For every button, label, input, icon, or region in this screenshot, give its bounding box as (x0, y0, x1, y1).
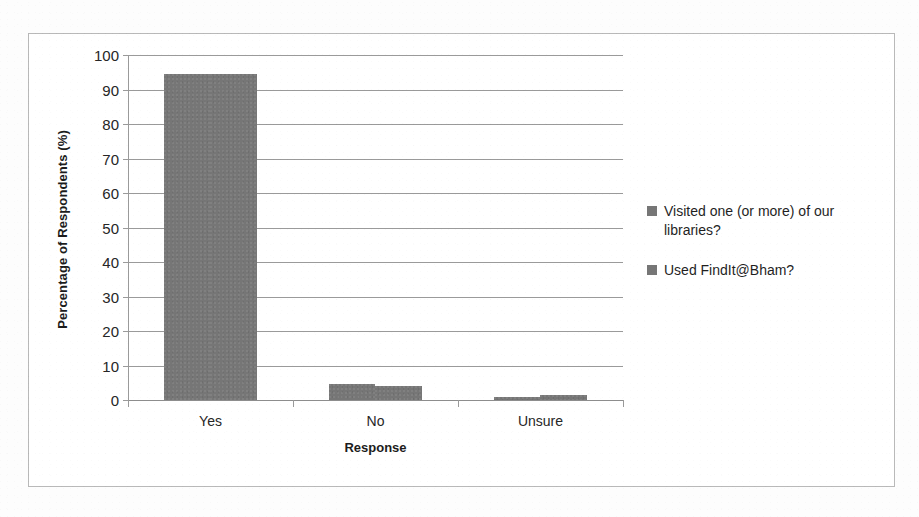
y-axis-tick-label: 100 (94, 47, 119, 64)
legend-label: Visited one (or more) of our libraries? (664, 202, 882, 241)
bar (375, 386, 421, 400)
legend-entry[interactable]: Used FindIt@Bham? (647, 261, 882, 280)
x-axis-tick-label: Yes (199, 413, 222, 429)
x-axis-tick-label: Unsure (518, 413, 563, 429)
x-axis-tick (458, 400, 459, 407)
x-axis-tick (293, 400, 294, 407)
y-axis-tick-label: 60 (102, 185, 119, 202)
bar (540, 395, 586, 400)
x-axis-tick-label: No (367, 413, 385, 429)
bar (164, 74, 210, 400)
chart-legend: Visited one (or more) of our libraries?U… (647, 202, 882, 300)
y-axis-tick-label: 10 (102, 357, 119, 374)
x-axis-title: Response (128, 440, 623, 455)
legend-label: Used FindIt@Bham? (664, 261, 794, 280)
plot-area: 0102030405060708090100 YesNoUnsure Respo… (128, 55, 623, 400)
y-axis-tick (123, 124, 128, 125)
legend-swatch-icon (647, 265, 657, 275)
y-axis-tick-label: 30 (102, 288, 119, 305)
y-axis-tick (123, 90, 128, 91)
legend-entry[interactable]: Visited one (or more) of our libraries? (647, 202, 882, 241)
y-axis-tick (123, 366, 128, 367)
y-axis-tick (123, 228, 128, 229)
y-axis-tick-label: 40 (102, 254, 119, 271)
y-axis-tick-label: 80 (102, 116, 119, 133)
bar (329, 384, 375, 400)
y-axis-tick-label: 20 (102, 323, 119, 340)
y-axis-tick (123, 159, 128, 160)
bar-group (164, 55, 256, 400)
y-axis-tick-label: 50 (102, 219, 119, 236)
y-axis-tick (123, 262, 128, 263)
gridline (128, 400, 623, 401)
y-axis-tick-label: 70 (102, 150, 119, 167)
y-axis-tick-label: 90 (102, 81, 119, 98)
y-axis-tick-label: 0 (111, 392, 119, 409)
bar (210, 74, 256, 400)
y-axis-title: Percentage of Respondents (%) (55, 100, 70, 360)
chart-frame: Percentage of Respondents (%) 0102030405… (28, 33, 895, 487)
bar-group (329, 55, 421, 400)
legend-swatch-icon (647, 206, 657, 216)
scanned-page: Percentage of Respondents (%) 0102030405… (0, 0, 919, 517)
x-axis-tick (623, 400, 624, 407)
y-axis-tick (123, 297, 128, 298)
y-axis-tick (123, 55, 128, 56)
y-axis-tick (123, 193, 128, 194)
x-axis-tick (128, 400, 129, 407)
bar (494, 397, 540, 400)
bar-group (494, 55, 586, 400)
y-axis-tick (123, 331, 128, 332)
